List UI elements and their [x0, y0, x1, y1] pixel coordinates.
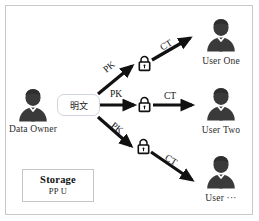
padlock-icon-upper [137, 55, 152, 72]
edge-label-pk-middle: PK [110, 89, 122, 99]
label-data-owner: Data Owner [2, 124, 64, 134]
user-avatar-icon [204, 87, 238, 121]
user-avatar-icon [16, 88, 50, 122]
user-avatar-icon [204, 18, 238, 52]
plaintext-label: 明文 [70, 99, 88, 112]
storage-title: Storage [40, 174, 76, 186]
label-user-one: User One [190, 56, 252, 66]
edge-label-ct-middle: CT [164, 91, 176, 101]
label-user-two: User Two [190, 125, 252, 135]
padlock-icon-lower [136, 138, 151, 155]
diagram-canvas: Data Owner 明文 PK PK PK CT CT CT [0, 0, 259, 221]
padlock-icon-middle [137, 96, 152, 113]
storage-subtitle: PP U [49, 186, 68, 196]
user-avatar-icon [204, 155, 238, 189]
storage-box: Storage PP U [22, 169, 94, 202]
label-user-more: User ··· [190, 193, 252, 203]
plaintext-box: 明文 [57, 94, 100, 116]
